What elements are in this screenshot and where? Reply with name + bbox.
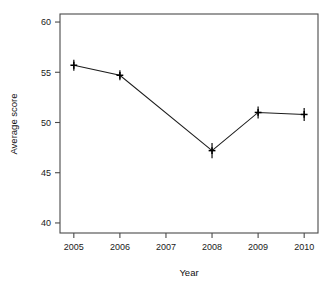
y-tick-label-50: 50 xyxy=(41,118,51,128)
x-axis-title: Year xyxy=(179,267,198,278)
y-axis-title: Average score xyxy=(8,93,19,154)
x-tick-label-2008: 2008 xyxy=(202,242,222,252)
chart-figure: 4045505560 200520062007200820092010 Year… xyxy=(0,0,336,291)
y-tick-label-55: 55 xyxy=(41,68,51,78)
line-chart: 4045505560 200520062007200820092010 Year… xyxy=(0,0,336,291)
y-tick-label-45: 45 xyxy=(41,168,51,178)
x-tick-label-2005: 2005 xyxy=(64,242,84,252)
y-tick-label-40: 40 xyxy=(41,218,51,228)
y-tick-label-60: 60 xyxy=(41,17,51,27)
x-tick-label-2010: 2010 xyxy=(294,242,314,252)
x-tick-label-2007: 2007 xyxy=(156,242,176,252)
x-tick-label-2006: 2006 xyxy=(110,242,130,252)
x-tick-label-2009: 2009 xyxy=(248,242,268,252)
